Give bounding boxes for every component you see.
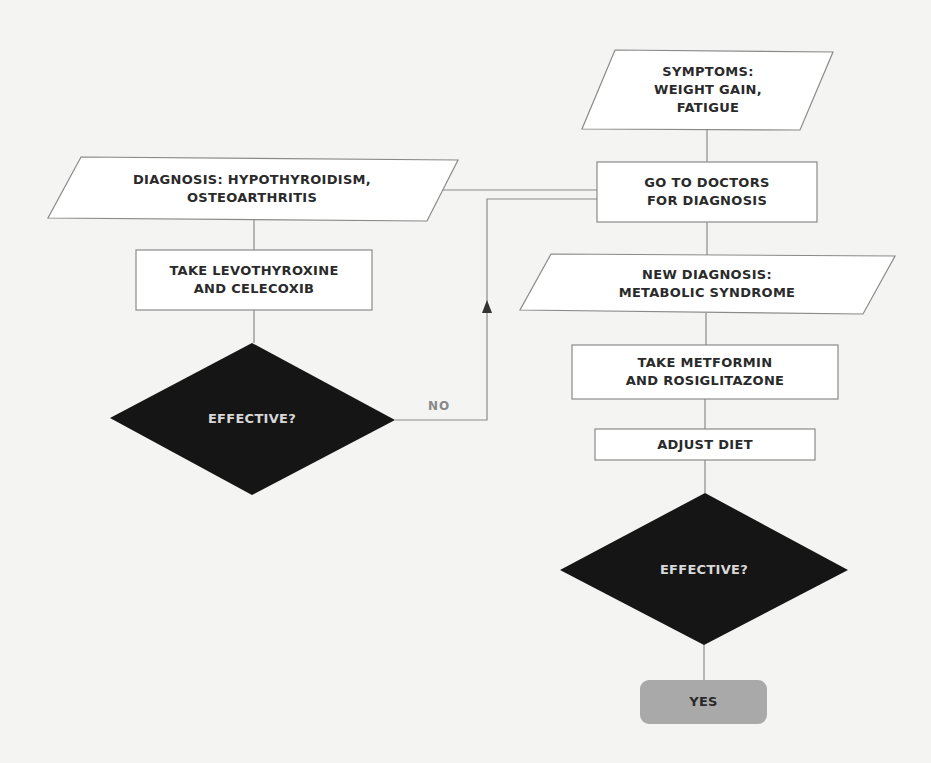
arrow-up-icon xyxy=(482,300,492,313)
node-adjust-diet: ADJUST DIET xyxy=(595,429,815,460)
node-symptoms: SYMPTOMS: WEIGHT GAIN, FATIGUE xyxy=(590,50,826,130)
node-go-to-doctors: GO TO DOCTORS FOR DIAGNOSIS xyxy=(597,162,817,222)
node-new-diagnosis: NEW DIAGNOSIS: METABOLIC SYNDROME xyxy=(535,255,879,313)
node-take-levo: TAKE LEVOTHYROXINE AND CELECOXIB xyxy=(136,250,372,310)
node-diagnosis: DIAGNOSIS: HYPOTHYROIDISM, OSTEOARTHRITI… xyxy=(60,157,444,220)
node-effective-2: EFFECTIVE? xyxy=(602,551,806,589)
node-effective-1: EFFECTIVE? xyxy=(150,400,354,438)
node-take-metformin: TAKE METFORMIN AND ROSIGLITAZONE xyxy=(572,345,838,399)
node-yes: YES xyxy=(640,680,767,724)
edge-label-no: NO xyxy=(428,399,450,413)
